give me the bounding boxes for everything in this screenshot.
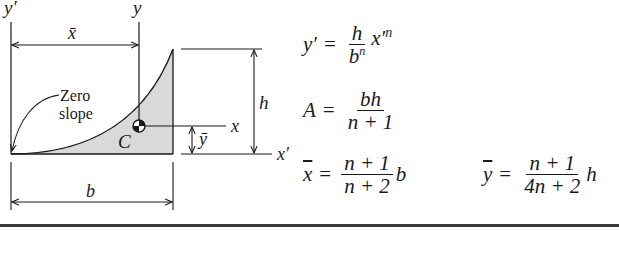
y-bar-label: ȳ bbox=[197, 129, 208, 149]
eq-curve-den: bn bbox=[346, 45, 369, 67]
annotation-zero: Zero bbox=[60, 87, 90, 104]
eq-area-den: n + 1 bbox=[345, 111, 397, 133]
eq-ybar-den: 4n + 2 bbox=[521, 175, 583, 197]
eq-curve-fraction: h bn bbox=[346, 22, 369, 67]
eq-xbar-num: n + 1 bbox=[341, 152, 393, 175]
equation-y-bar: y = n + 1 4n + 2 h bbox=[483, 152, 597, 197]
eq-xbar-den: n + 2 bbox=[341, 175, 393, 197]
eq-curve-num: h bbox=[349, 22, 366, 45]
eq-curve-equals: = bbox=[324, 32, 336, 57]
eq-xbar-tail: b bbox=[396, 162, 407, 187]
eq-curve-lhs: y′ bbox=[303, 32, 317, 57]
eq-xbar-lhs: x bbox=[303, 162, 312, 187]
b-label: b bbox=[86, 181, 95, 201]
eq-ybar-lhs: y bbox=[483, 162, 492, 187]
y-prime-label: y′ bbox=[2, 0, 17, 18]
y-label: y bbox=[131, 0, 142, 18]
eq-ybar-equals: = bbox=[499, 162, 511, 187]
eq-ybar-fraction: n + 1 4n + 2 bbox=[521, 152, 583, 197]
equation-x-bar: x = n + 1 n + 2 b bbox=[303, 152, 406, 197]
h-label: h bbox=[259, 92, 269, 113]
eq-area-fraction: bh n + 1 bbox=[345, 88, 397, 133]
section-divider bbox=[0, 224, 619, 227]
eq-area-num: bh bbox=[357, 88, 384, 111]
x-label: x bbox=[230, 116, 239, 136]
eq-ybar-tail: h bbox=[586, 162, 597, 187]
equation-area: A = bh n + 1 bbox=[303, 88, 399, 133]
eq-area-equals: = bbox=[323, 98, 335, 123]
centroid-label: C bbox=[118, 131, 131, 152]
eq-curve-tail: x′n bbox=[371, 25, 392, 51]
annotation-slope: slope bbox=[59, 105, 93, 123]
annotation-leader bbox=[12, 95, 59, 151]
eq-xbar-equals: = bbox=[319, 162, 331, 187]
eq-ybar-num: n + 1 bbox=[526, 152, 578, 175]
x-prime-label: x′ bbox=[276, 144, 290, 164]
equation-curve: y′ = h bn x′n bbox=[303, 22, 392, 67]
centroid-icon bbox=[133, 120, 145, 132]
eq-xbar-fraction: n + 1 n + 2 bbox=[341, 152, 393, 197]
x-bar-label: x̄ bbox=[67, 23, 76, 43]
eq-area-lhs: A bbox=[303, 98, 316, 123]
